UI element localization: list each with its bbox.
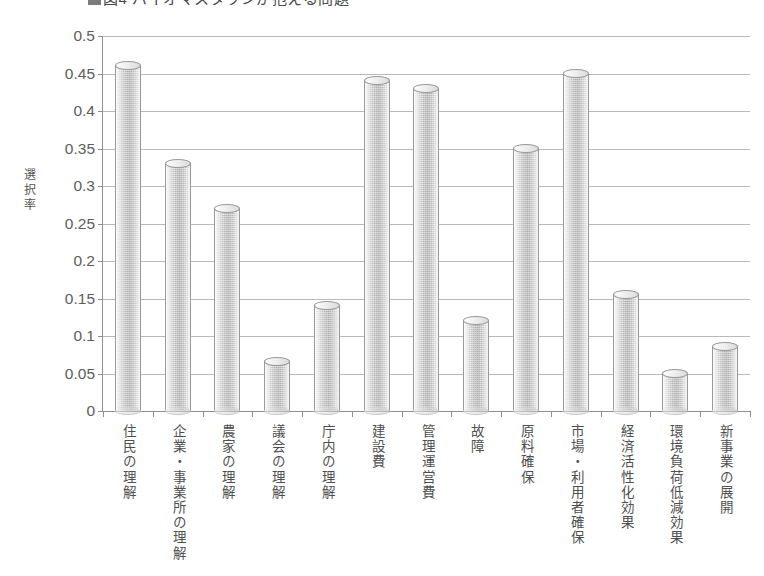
bar-item [501, 36, 551, 411]
bar-top-ellipse [314, 301, 340, 310]
bar-top-ellipse [563, 69, 589, 78]
bar-body [513, 148, 539, 412]
bar-base-ellipse [413, 407, 439, 415]
bar-cylinder [165, 159, 191, 412]
bar-cylinder [712, 342, 738, 411]
bar-top-ellipse [115, 61, 141, 70]
bar-item [203, 36, 253, 411]
bar-base-ellipse [463, 407, 489, 415]
bar-body [463, 320, 489, 411]
bar-cylinder [413, 84, 439, 412]
x-tick-label: 庁内の理解 [319, 424, 335, 500]
y-tick-label: 0.1 [73, 327, 95, 345]
bar-base-ellipse [264, 407, 290, 415]
x-tick-mark [501, 411, 502, 417]
bar-item [451, 36, 501, 411]
y-tick-label: 0.35 [65, 140, 95, 158]
bar-base-ellipse [165, 407, 191, 415]
title-marker-icon [88, 0, 101, 5]
bar-cylinder [214, 204, 240, 412]
x-tick-label: 企業・事業所の理解 [170, 424, 186, 561]
x-tick-label: 原料確保 [518, 424, 534, 485]
bar-top-ellipse [264, 357, 290, 366]
x-tick-mark [402, 411, 403, 417]
x-tick-label: 市場・利用者確保 [568, 424, 584, 546]
bar-top-ellipse [364, 76, 390, 85]
bar-item [153, 36, 203, 411]
bar-item [103, 36, 153, 411]
bar-base-ellipse [214, 407, 240, 415]
bar-body [613, 294, 639, 411]
y-tick-label: 0.4 [73, 102, 95, 120]
bar-item [352, 36, 402, 411]
x-tick-label: 建設費 [369, 424, 385, 470]
x-tick-mark [352, 411, 353, 417]
bar-cylinder [364, 76, 390, 411]
chart-title: 図4 バイオマスタウンが抱える問題 [88, 0, 349, 8]
bar-base-ellipse [613, 407, 639, 415]
bar-chart-figure: 図4 バイオマスタウンが抱える問題 選択率 00.050.10.150.20.2… [0, 0, 764, 576]
x-tick-mark [302, 411, 303, 417]
bar-top-ellipse [513, 144, 539, 153]
y-tick-label: 0.05 [65, 365, 95, 383]
bar-top-ellipse [413, 84, 439, 93]
x-tick-mark [203, 411, 204, 417]
bar-item [700, 36, 750, 411]
bar-base-ellipse [314, 407, 340, 415]
x-tick-mark [103, 411, 104, 417]
bar-item [601, 36, 651, 411]
bar-cylinder [463, 316, 489, 411]
bar-item [650, 36, 700, 411]
bar-item [252, 36, 302, 411]
bar-body [314, 305, 340, 411]
bar-base-ellipse [115, 407, 141, 415]
bar-top-ellipse [165, 159, 191, 168]
bar-item [402, 36, 452, 411]
bar-body [712, 346, 738, 411]
x-tick-mark [601, 411, 602, 417]
x-tick-label: 議会の理解 [269, 424, 285, 500]
plot-area: 00.050.10.150.20.250.30.350.40.450.5 住民の… [103, 36, 750, 411]
x-tick-mark [153, 411, 154, 417]
x-tick-label: 農家の理解 [219, 424, 235, 500]
y-axis-title: 選択率 [22, 168, 38, 213]
x-tick-label: 管理運営費 [419, 424, 435, 500]
bar-cylinder [662, 369, 688, 412]
x-tick-mark [551, 411, 552, 417]
bar-item [551, 36, 601, 411]
bar-body [364, 80, 390, 411]
bar-body [563, 73, 589, 412]
x-tick-mark [700, 411, 701, 417]
y-tick-label: 0 [86, 402, 95, 420]
y-tick-label: 0.15 [65, 290, 95, 308]
bar-base-ellipse [364, 407, 390, 415]
bar-base-ellipse [662, 407, 688, 415]
bar-body [115, 65, 141, 411]
y-tick-label: 0.5 [73, 27, 95, 45]
bar-cylinder [513, 144, 539, 412]
bar-base-ellipse [712, 407, 738, 415]
bar-top-ellipse [613, 290, 639, 299]
chart-title-text: 図4 バイオマスタウンが抱える問題 [103, 0, 349, 7]
bar-top-ellipse [463, 316, 489, 325]
y-tick-label: 0.2 [73, 252, 95, 270]
bar-base-ellipse [513, 407, 539, 415]
y-tick-label: 0.45 [65, 65, 95, 83]
y-tick-label: 0.25 [65, 215, 95, 233]
bar-base-ellipse [563, 407, 589, 415]
y-tick-label: 0.3 [73, 177, 95, 195]
bar-cylinder [264, 357, 290, 411]
bar-body [264, 361, 290, 411]
bar-cylinder [563, 69, 589, 412]
x-tick-mark [252, 411, 253, 417]
x-tick-label: 故障 [468, 424, 484, 454]
bar-body [413, 88, 439, 412]
bar-top-ellipse [214, 204, 240, 213]
bar-body [165, 163, 191, 412]
bar-top-ellipse [662, 369, 688, 378]
x-tick-mark [650, 411, 651, 417]
bar-body [662, 373, 688, 412]
bar-body [214, 208, 240, 412]
x-tick-label: 住民の理解 [120, 424, 136, 500]
bar-top-ellipse [712, 342, 738, 351]
